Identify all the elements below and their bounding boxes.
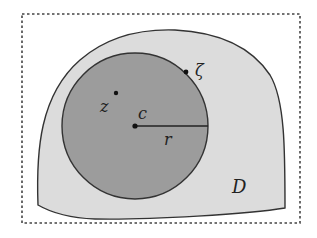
label-r: r [164,130,173,149]
label-c: c [138,104,147,123]
diagram-canvas: c z r ζ D [0,0,317,238]
label-z: z [99,97,109,116]
center-point [132,123,137,128]
label-d: D [231,176,247,197]
point-z [114,91,118,95]
point-zeta [184,70,189,75]
label-zeta: ζ [195,61,205,80]
